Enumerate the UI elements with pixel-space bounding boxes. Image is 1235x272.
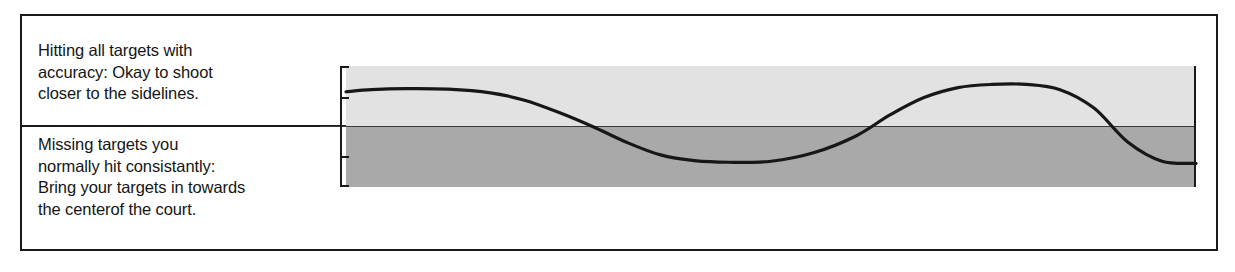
caption-lower-missing: Missing targets you normally hit consist… — [38, 134, 320, 220]
performance-curve-path — [346, 84, 1196, 164]
figure-frame: Hitting all targets with accuracy: Okay … — [20, 14, 1218, 251]
performance-curve — [346, 66, 1196, 187]
performance-wave-chart — [320, 66, 1196, 187]
caption-upper-accuracy: Hitting all targets with accuracy: Okay … — [38, 40, 320, 105]
y-axis-spine — [340, 66, 342, 187]
